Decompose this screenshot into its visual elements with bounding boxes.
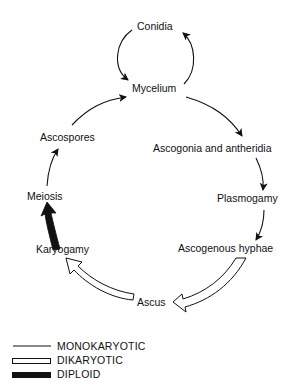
node-mycelium: Mycelium	[132, 82, 176, 94]
legend-diploid-label: DIPLOID	[57, 368, 100, 380]
node-ascogenous-hyphae: Ascogenous hyphae	[178, 242, 273, 254]
node-ascogonia-antheridia: Ascogonia and antheridia	[153, 142, 272, 154]
life-cycle-diagram: Conidia Mycelium Ascogonia and antheridi…	[0, 0, 300, 391]
legend-dikaryotic-bar	[13, 359, 51, 364]
arrow-plasmogamy-to-ascogenous	[256, 210, 264, 240]
node-ascus: Ascus	[137, 296, 166, 308]
arrow-ascogonia-to-plasmogamy	[256, 158, 263, 190]
node-plasmogamy: Plasmogamy	[217, 192, 278, 204]
arrow-ascus-to-karyogamy	[66, 258, 134, 300]
arrow-mycelium-to-conidia	[183, 33, 194, 84]
legend-dikaryotic-label: DIKARYOTIC	[57, 354, 123, 366]
arrow-mycelium-to-ascogonia	[186, 97, 242, 136]
node-karyogamy: Karyogamy	[36, 243, 89, 255]
node-meiosis: Meiosis	[27, 190, 63, 202]
arrow-ascospores-to-mycelium	[72, 97, 126, 125]
arrow-meiosis-to-ascospores	[47, 149, 58, 186]
arrow-ascogenous-to-ascus	[173, 258, 246, 312]
arrow-conidia-to-mycelium	[117, 30, 132, 80]
node-conidia: Conidia	[137, 20, 173, 32]
node-ascospores: Ascospores	[40, 131, 95, 143]
legend-diploid-bar	[12, 372, 51, 378]
legend-monokaryotic-label: MONOKARYOTIC	[57, 340, 146, 352]
